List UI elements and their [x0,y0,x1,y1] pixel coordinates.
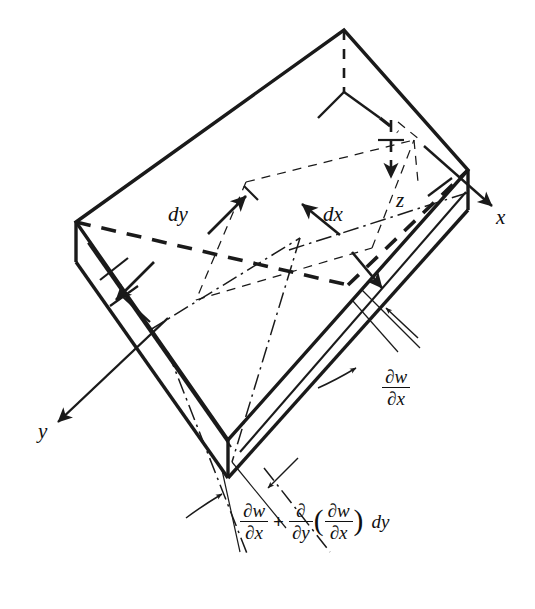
dx-dimension-label: dx [323,204,343,225]
hidden-back-edges [76,170,468,285]
paren-close: ) [353,504,365,537]
fraction-numerator: ∂w [382,366,410,388]
plate-element-figure: x y z dy dx ∂w ∂x ∂w ∂x + ∂ ∂y ( ∂w ∂x )… [0,0,535,609]
fraction-numerator: ∂ [289,500,313,522]
fraction-numerator: ∂w [325,500,353,522]
fraction-dw-dx: ∂w ∂x [382,366,410,410]
fraction-denominator: ∂x [382,388,410,409]
plus-operator: + [268,511,289,533]
fraction-term2: ∂ ∂y [289,500,313,544]
dy-dimension-label: dy [168,204,188,225]
slope-label-right: ∂w ∂x [382,366,410,410]
fraction-numerator: ∂w [240,500,268,522]
plate-side-faces [76,170,468,478]
fraction-denominator: ∂y [289,522,313,543]
dy-differential: dy [364,511,389,533]
y-axis-label: y [38,421,47,442]
z-axis [318,30,404,178]
slope-label-bottom: ∂w ∂x + ∂ ∂y ( ∂w ∂x ) dy [240,500,389,544]
x-axis-label: x [496,207,505,228]
z-axis-label: z [396,190,404,211]
fraction-denominator: ∂x [240,522,268,543]
paren-open: ( [313,504,325,537]
fraction-term1: ∂w ∂x [240,500,268,544]
x-axis [424,146,492,206]
fraction-denominator: ∂x [325,522,353,543]
fraction-term3: ∂w ∂x [325,500,353,544]
